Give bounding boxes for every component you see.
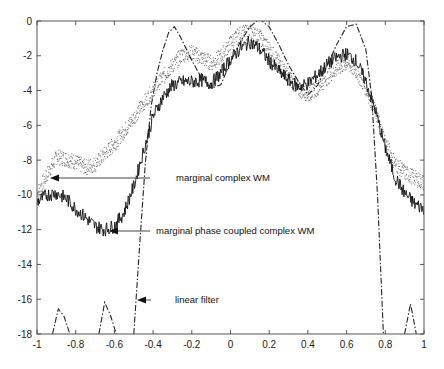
- data-point: [148, 93, 149, 94]
- data-point: [128, 124, 129, 125]
- data-point: [172, 65, 173, 66]
- data-point: [241, 39, 242, 40]
- data-point: [240, 38, 241, 39]
- data-point: [204, 65, 205, 66]
- data-point: [195, 60, 196, 61]
- data-point: [47, 176, 48, 177]
- data-point: [55, 154, 56, 155]
- data-point: [130, 125, 131, 126]
- data-point: [326, 79, 327, 80]
- data-point: [194, 55, 195, 56]
- data-point: [338, 60, 339, 61]
- data-point: [118, 131, 119, 132]
- data-point: [232, 34, 233, 35]
- data-point: [118, 133, 119, 134]
- data-point: [82, 161, 83, 162]
- data-point: [331, 80, 332, 81]
- data-point: [407, 179, 408, 180]
- data-point: [211, 69, 212, 70]
- data-point: [81, 165, 82, 166]
- data-point: [59, 156, 60, 157]
- data-point: [406, 174, 407, 175]
- data-point: [128, 125, 129, 126]
- data-point: [275, 58, 276, 59]
- data-point: [315, 95, 316, 96]
- data-point: [391, 153, 392, 154]
- data-point: [263, 35, 264, 36]
- data-point: [393, 167, 394, 168]
- data-point: [82, 163, 83, 164]
- x-tick-label: -0.8: [67, 339, 85, 350]
- data-point: [61, 153, 62, 154]
- data-point: [96, 158, 97, 159]
- data-point: [405, 176, 406, 177]
- data-point: [117, 136, 118, 137]
- data-point: [402, 167, 403, 168]
- data-point: [390, 150, 391, 151]
- data-point: [415, 170, 416, 171]
- data-point: [349, 60, 350, 61]
- data-point: [185, 56, 186, 57]
- data-point: [186, 53, 187, 54]
- data-point: [60, 164, 61, 165]
- data-point: [309, 87, 310, 88]
- data-point: [403, 165, 404, 166]
- data-point: [299, 95, 300, 96]
- data-point: [201, 53, 202, 54]
- data-point: [343, 62, 344, 63]
- data-point: [131, 121, 132, 122]
- data-point: [335, 67, 336, 68]
- data-point: [193, 54, 194, 55]
- data-point: [246, 25, 247, 26]
- data-point: [159, 89, 160, 90]
- data-point: [305, 100, 306, 101]
- data-point: [335, 70, 336, 71]
- data-point: [241, 35, 242, 36]
- data-point: [255, 29, 256, 30]
- data-point: [218, 64, 219, 65]
- data-point: [72, 157, 73, 158]
- data-point: [327, 73, 328, 74]
- data-point: [221, 55, 222, 56]
- data-point: [90, 168, 91, 169]
- data-point: [315, 96, 316, 97]
- data-point: [325, 81, 326, 82]
- data-point: [388, 149, 389, 150]
- data-point: [187, 56, 188, 57]
- data-point: [207, 61, 208, 62]
- data-point: [277, 57, 278, 58]
- data-point: [97, 158, 98, 159]
- data-point: [87, 171, 88, 172]
- data-point: [120, 130, 121, 131]
- data-point: [160, 73, 161, 74]
- data-point: [327, 78, 328, 79]
- data-point: [216, 67, 217, 68]
- data-point: [119, 130, 120, 131]
- data-point: [270, 55, 271, 56]
- data-point: [261, 35, 262, 36]
- data-point: [345, 70, 346, 71]
- data-point: [258, 40, 259, 41]
- data-point: [171, 71, 172, 72]
- data-point: [360, 73, 361, 74]
- data-point: [273, 58, 274, 59]
- data-point: [89, 171, 90, 172]
- data-point: [202, 59, 203, 60]
- data-point: [105, 154, 106, 155]
- data-point: [422, 177, 423, 178]
- data-point: [140, 110, 141, 111]
- data-point: [101, 160, 102, 161]
- annotation-linear: linear filter: [137, 294, 219, 305]
- data-point: [260, 29, 261, 30]
- data-point: [357, 77, 358, 78]
- data-point: [208, 56, 209, 57]
- data-point: [89, 164, 90, 165]
- y-tick-label: -18: [18, 329, 33, 340]
- data-point: [157, 86, 158, 87]
- data-point: [283, 69, 284, 70]
- data-point: [227, 54, 228, 55]
- data-point: [318, 94, 319, 95]
- data-point: [329, 83, 330, 84]
- data-point: [288, 68, 289, 69]
- data-point: [348, 64, 349, 65]
